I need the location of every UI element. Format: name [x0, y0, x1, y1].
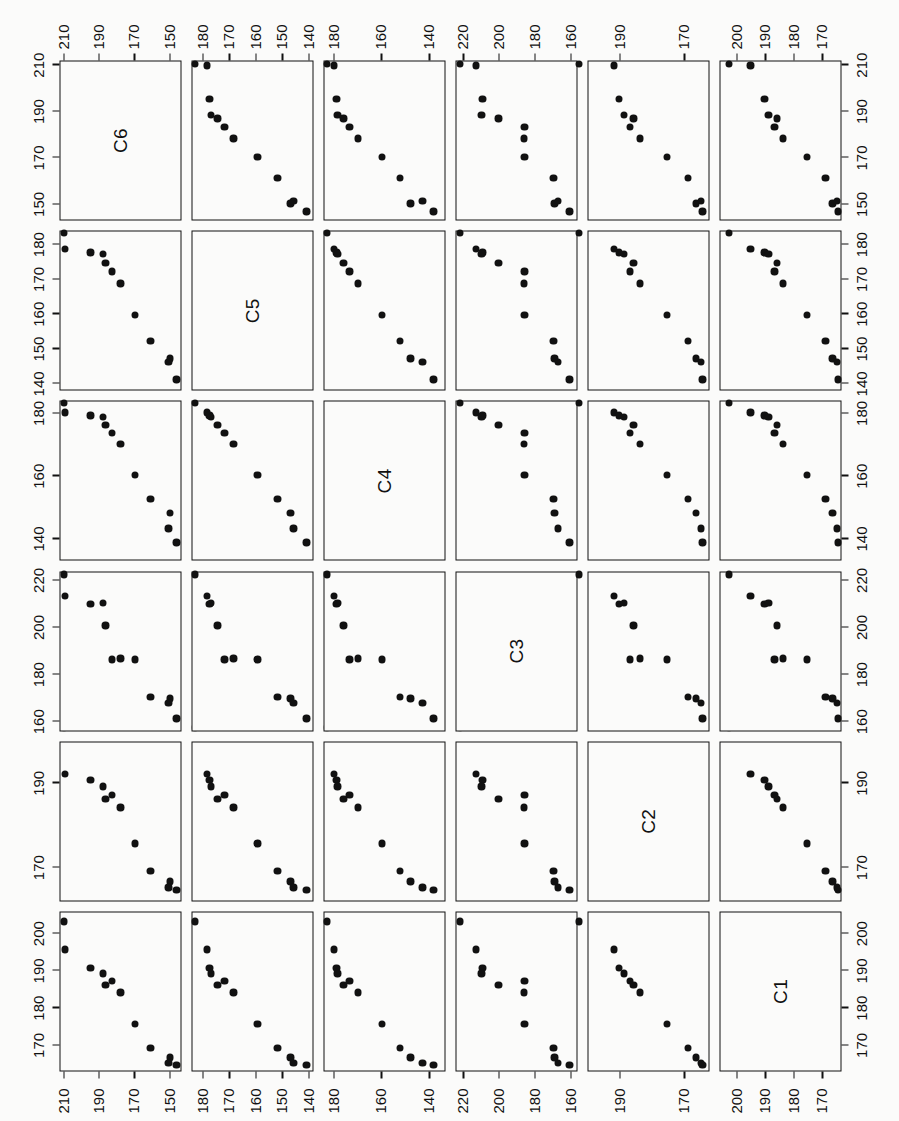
data-point [60, 229, 68, 237]
data-point [520, 311, 528, 319]
data-point [131, 839, 139, 847]
axis-tick-label: 150 [852, 191, 869, 216]
data-point [620, 250, 628, 258]
data-point [146, 693, 154, 701]
axis-tick-label: 170 [29, 266, 46, 291]
axis-tick-label: 180 [193, 24, 210, 49]
data-point [289, 197, 297, 205]
data-point [220, 123, 228, 131]
axis-tick [498, 53, 499, 60]
axis-tick [683, 53, 684, 60]
data-point [146, 495, 154, 503]
data-point [99, 782, 107, 790]
axis-tick [841, 781, 848, 782]
axis-tick [821, 53, 822, 60]
data-point [61, 945, 69, 953]
diagonal-label: C2 [637, 808, 659, 833]
axis-tick [52, 243, 59, 244]
data-point [760, 95, 768, 103]
axis-tick-label: 200 [852, 921, 869, 946]
data-point [620, 599, 628, 607]
data-point [520, 267, 528, 275]
data-point [626, 977, 634, 985]
data-point [821, 174, 829, 182]
axis-tick [793, 1071, 794, 1078]
data-point [354, 654, 362, 662]
data-point [339, 114, 347, 122]
axis-tick-label: 170 [29, 1032, 46, 1057]
axis-tick-label: 210 [852, 52, 869, 77]
data-point [803, 839, 811, 847]
data-point [333, 782, 341, 790]
data-point [330, 592, 338, 600]
data-point [60, 917, 68, 925]
data-point [172, 538, 180, 546]
data-point [626, 267, 634, 275]
axis-tick-label: 180 [324, 24, 341, 49]
data-point [554, 524, 562, 532]
axis-tick-label: 210 [29, 52, 46, 77]
data-point [378, 311, 386, 319]
axis-tick-label: 190 [29, 99, 46, 124]
data-point [575, 399, 583, 407]
data-point [172, 886, 180, 894]
data-point [725, 399, 733, 407]
axis-tick-label: 150 [160, 24, 177, 49]
data-point [108, 267, 116, 275]
pairs-plot-rotated-wrapper: C6C5C4C3C2C1 170180190200150170190210170… [0, 0, 899, 1121]
axis-tick-label: 140 [29, 526, 46, 551]
axis-tick [841, 243, 848, 244]
data-point [191, 399, 199, 407]
data-point [833, 197, 841, 205]
data-point [520, 429, 528, 437]
data-point [378, 655, 386, 663]
axis-tick-label: 160 [852, 463, 869, 488]
axis-tick [52, 382, 59, 383]
axis-tick-label: 210 [54, 1088, 71, 1113]
data-point [253, 839, 261, 847]
axis-tick-label: 180 [852, 662, 869, 687]
scatter-panel-c1-vs-c3 [455, 911, 577, 1071]
data-point [191, 60, 199, 68]
axis-tick-label: 180 [784, 24, 801, 49]
scatter-panel-c2-vs-c5 [191, 741, 313, 901]
axis-tick-label: 200 [29, 921, 46, 946]
axis-tick [63, 1071, 64, 1078]
data-point [108, 977, 116, 985]
axis-tick [52, 932, 59, 933]
data-point [418, 197, 426, 205]
scatter-panel-c3-vs-c4 [323, 571, 445, 731]
axis-tick-label: 170 [220, 24, 237, 49]
axis-tick-label: 180 [324, 1088, 341, 1113]
axis-tick [308, 53, 309, 60]
data-point [626, 655, 634, 663]
axis-tick [619, 1071, 620, 1078]
data-point [746, 245, 754, 253]
data-point [116, 654, 124, 662]
data-point [302, 1061, 310, 1069]
scatter-panel-c4-vs-c6 [59, 400, 181, 560]
data-point [418, 883, 426, 891]
axis-tick [841, 1044, 848, 1045]
data-point [549, 337, 557, 345]
axis-tick-label: 160 [852, 709, 869, 734]
axis-tick [534, 1071, 535, 1078]
axis-tick-label: 190 [852, 958, 869, 983]
data-point [629, 114, 637, 122]
data-point [146, 867, 154, 875]
axis-tick [619, 53, 620, 60]
data-point [207, 413, 215, 421]
data-point [684, 693, 692, 701]
data-point [520, 803, 528, 811]
data-point [636, 440, 644, 448]
axis-tick [841, 312, 848, 313]
data-point [99, 250, 107, 258]
axis-tick [52, 673, 59, 674]
scatter-panel-c2-vs-c1 [719, 741, 841, 901]
data-point [273, 1044, 281, 1052]
data-point [692, 509, 700, 517]
data-point [565, 886, 573, 894]
data-point [116, 803, 124, 811]
data-point [636, 654, 644, 662]
data-point [773, 621, 781, 629]
